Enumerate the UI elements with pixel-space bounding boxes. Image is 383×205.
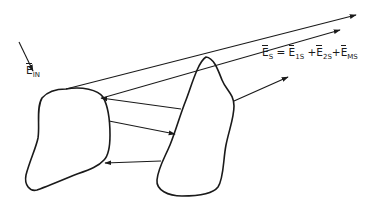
eq-term-1-subscript: 1S: [295, 53, 304, 61]
scattered-ray-2: [102, 30, 340, 98]
eq-term-2-symbol: E: [316, 47, 323, 58]
interaction-arrow-right-to-left-bottom: [105, 161, 161, 163]
eq-plus-2: +: [332, 46, 341, 58]
incident-field-label: EIN: [26, 65, 40, 79]
incident-field-subscript: IN: [33, 71, 40, 79]
eq-plus-1: +: [307, 46, 316, 58]
eq-lhs-symbol: E: [262, 47, 269, 58]
eq-term-3-subscript: MS: [347, 53, 357, 61]
eq-term-1-symbol: E: [289, 47, 296, 58]
left-scatterer-outline: [26, 88, 110, 190]
incident-field-symbol: E: [26, 65, 33, 76]
scattered-field-equation: ES = E1S +E2S+EMS: [262, 47, 358, 61]
interaction-arrow-left-to-right: [109, 121, 175, 134]
scattered-ray-3: [234, 77, 288, 101]
scattering-diagram: [0, 0, 383, 205]
right-scatterer-outline: [157, 57, 234, 196]
eq-lhs-subscript: S: [269, 53, 273, 61]
eq-equals: =: [276, 46, 285, 58]
eq-term-2-subscript: 2S: [323, 53, 332, 61]
eq-term-3-symbol: E: [341, 47, 348, 58]
interaction-arrow-right-to-left-top: [101, 98, 181, 109]
